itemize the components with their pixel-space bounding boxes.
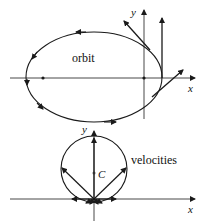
focus-point-origin [142, 76, 145, 79]
orbit-velocity-diagram: orbit y x C velocities y x [0, 0, 203, 222]
focus-point-left [41, 76, 44, 79]
y-axis-label-bottom: y [81, 123, 87, 135]
center-label: C [98, 168, 106, 180]
y-axis-label: y [130, 6, 136, 18]
orbit-label: orbit [72, 51, 95, 65]
orbit-diagram: orbit y x [10, 6, 195, 122]
velocities-label: velocities [131, 153, 177, 167]
x-axis-label: x [187, 82, 193, 94]
orbit-arrow-upper-left [32, 52, 37, 59]
x-axis-label-bottom: x [187, 203, 193, 215]
velocity-ray-upper-left [62, 168, 94, 199]
velocity-vector-upper [124, 21, 150, 50]
velocity-vector-lower [152, 70, 183, 97]
orbit-ellipse [26, 32, 162, 122]
velocities-diagram: C velocities y x [10, 123, 195, 221]
